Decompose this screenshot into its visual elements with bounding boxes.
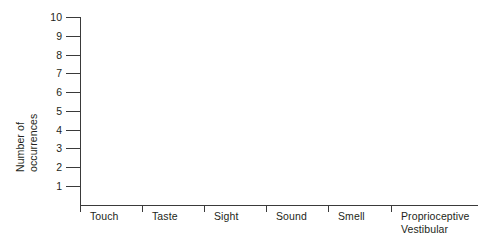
- x-axis-tick: [328, 206, 329, 212]
- y-axis-tick-label-text: 4: [30, 125, 62, 136]
- y-axis-tick: [66, 167, 80, 168]
- x-axis-tick-label-line: Taste: [152, 210, 178, 223]
- x-axis-tick-label: Touch: [90, 210, 119, 223]
- y-axis-tick-label-text: 9: [30, 31, 62, 42]
- y-axis-tick: [66, 17, 80, 18]
- x-axis-tick-label-line: Smell: [338, 210, 365, 223]
- x-axis-tick: [204, 206, 205, 212]
- x-axis-tick-label: Taste: [152, 210, 178, 223]
- x-axis-tick: [142, 206, 143, 212]
- y-axis-tick-label-text: 1: [30, 181, 62, 192]
- x-axis-tick: [266, 206, 267, 212]
- y-axis-tick-label-text: 6: [30, 87, 62, 98]
- y-axis-tick: [66, 111, 80, 112]
- x-axis-tick: [80, 206, 81, 212]
- x-axis-tick-label-line: Sight: [214, 210, 238, 223]
- y-axis-tick-label: 6: [30, 87, 62, 98]
- y-axis-tick: [66, 148, 80, 149]
- y-axis-tick-label: 10: [30, 12, 62, 23]
- y-axis-tick-label-text: 3: [30, 143, 62, 154]
- y-axis-tick-label: 9: [30, 31, 62, 42]
- y-axis-tick: [66, 92, 80, 93]
- y-axis-tick-label-text: 7: [30, 68, 62, 79]
- y-axis-tick-label: 5: [30, 106, 62, 117]
- y-axis-tick-label: 1: [30, 181, 62, 192]
- x-axis-tick-label: Smell: [338, 210, 365, 223]
- x-axis-tick-label-line: Vestibular: [401, 223, 470, 236]
- y-axis-tick-label-text: 5: [30, 106, 62, 117]
- y-axis-tick: [66, 130, 80, 131]
- y-axis-tick-label-text: 8: [30, 50, 62, 61]
- y-axis-tick: [66, 55, 80, 56]
- y-axis-tick-label-text: 10: [30, 12, 62, 23]
- y-axis-tick-label: 4: [30, 125, 62, 136]
- y-axis-title-line-1: Number of: [14, 122, 27, 172]
- y-axis-tick-label-text: 2: [30, 162, 62, 173]
- y-axis-tick: [66, 36, 80, 37]
- x-axis-tick: [391, 206, 392, 212]
- x-axis-line: [80, 205, 478, 206]
- y-axis-tick: [66, 186, 80, 187]
- y-axis-tick-label: 2: [30, 162, 62, 173]
- y-axis-tick: [66, 73, 80, 74]
- chart-container: Number of occurrences 10987654321 TouchT…: [0, 0, 491, 247]
- x-axis-tick-label: Sound: [276, 210, 307, 223]
- y-axis-tick-label: 8: [30, 50, 62, 61]
- y-axis-tick-label: 7: [30, 68, 62, 79]
- x-axis-tick-label-line: Touch: [90, 210, 119, 223]
- x-axis-tick-label-line: Sound: [276, 210, 307, 223]
- x-axis-tick-label: Sight: [214, 210, 238, 223]
- y-axis-tick-label: 3: [30, 143, 62, 154]
- x-axis-tick-label-line: Proprioceptive: [401, 210, 470, 223]
- x-axis-tick-label: ProprioceptiveVestibular: [401, 210, 470, 236]
- plot-area: [81, 17, 478, 205]
